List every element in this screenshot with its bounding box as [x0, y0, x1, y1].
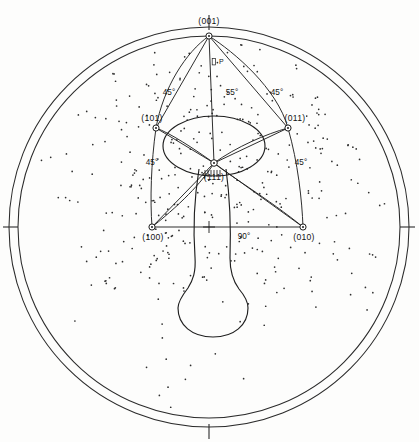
scatter-point: [240, 167, 242, 169]
scatter-point: [131, 184, 133, 186]
scatter-point: [266, 93, 268, 95]
scatter-point: [357, 182, 359, 184]
scatter-point: [123, 241, 125, 243]
scatter-point: [167, 386, 169, 388]
scatter-point: [190, 365, 192, 367]
scatter-point: [256, 159, 258, 161]
scatter-point: [326, 138, 328, 140]
scatter-point: [104, 141, 106, 143]
scatter-point: [203, 276, 205, 278]
pole-marker-100[interactable]: [149, 224, 155, 230]
angle-label-upper-left: 45°: [163, 88, 175, 97]
scatter-point: [168, 257, 170, 259]
scatter-point: [100, 250, 102, 252]
scatter-point: [105, 118, 107, 120]
scatter-point: [135, 170, 137, 172]
scatter-point: [206, 279, 208, 281]
scatter-point: [277, 153, 279, 155]
scatter-point: [306, 115, 308, 117]
scatter-point: [242, 119, 244, 121]
pole-marker-001[interactable]: [206, 33, 212, 39]
scatter-point: [91, 173, 93, 175]
scatter-point: [295, 64, 297, 66]
scatter-point: [279, 203, 281, 205]
scatter-point: [249, 122, 251, 124]
zone-line-001-011-ray: [209, 36, 288, 128]
scatter-point: [65, 197, 67, 199]
zone-line-111-010-ray: [214, 163, 303, 227]
scatter-point: [252, 247, 254, 249]
scatter-point: [222, 301, 224, 303]
scatter-point: [146, 367, 148, 369]
scatter-point: [154, 201, 156, 203]
scatter-point: [248, 221, 250, 223]
scatter-point: [153, 200, 155, 202]
scatter-point: [140, 271, 142, 273]
scatter-point: [319, 148, 321, 150]
scatter-point: [296, 133, 298, 135]
scatter-point: [156, 74, 158, 76]
scatter-point: [198, 72, 200, 74]
scatter-point: [139, 185, 141, 187]
scatter-point: [180, 130, 182, 132]
scatter-point: [256, 71, 258, 73]
scatter-point: [116, 99, 118, 101]
scatter-point: [133, 237, 135, 239]
pole-marker-011[interactable]: [285, 125, 291, 131]
scatter-point: [247, 70, 249, 72]
scatter-point: [319, 181, 321, 183]
scatter-point: [276, 201, 278, 203]
scatter-point: [178, 213, 180, 215]
scatter-point: [355, 148, 357, 150]
scatter-point: [118, 120, 120, 122]
scatter-point: [214, 353, 216, 355]
scatter-point: [292, 94, 294, 96]
scatter-point: [183, 216, 185, 218]
scatter-point: [157, 298, 159, 300]
scatter-point: [129, 95, 131, 97]
scatter-point: [92, 144, 94, 146]
pole-marker-111[interactable]: [211, 160, 218, 167]
zone-lines: [152, 36, 303, 227]
scatter-point: [202, 276, 204, 278]
scatter-point: [349, 248, 351, 250]
scatter-point: [130, 186, 132, 188]
scatter-point: [308, 192, 310, 194]
scatter-point: [290, 247, 292, 249]
scatter-point: [212, 183, 214, 185]
pole-marker-010[interactable]: [300, 224, 306, 230]
scatter-point: [265, 279, 267, 281]
point-marker-p-icon[interactable]: [212, 59, 215, 65]
scatter-point: [251, 107, 253, 109]
scatter-point: [345, 213, 347, 215]
scatter-point: [211, 193, 213, 195]
scatter-point: [162, 250, 164, 252]
scatter-point: [86, 111, 88, 113]
scatter-point: [126, 122, 128, 124]
scatter-point: [137, 197, 139, 199]
scatter-point: [173, 283, 175, 285]
scatter-point: [372, 254, 374, 256]
scatter-point: [105, 212, 107, 214]
scatter-point: [193, 96, 195, 98]
scatter-point: [218, 253, 220, 255]
angle-label-center-55: 55°: [226, 88, 238, 97]
scatter-point: [183, 287, 185, 289]
scatter-point: [270, 240, 272, 242]
scatter-point: [379, 205, 381, 207]
pole-marker-101[interactable]: [153, 125, 159, 131]
scatter-point: [224, 197, 226, 199]
scatter-point: [168, 237, 170, 239]
scatter-point: [375, 256, 377, 258]
scatter-point: [220, 195, 222, 197]
scatter-point: [337, 259, 339, 261]
scatter-point: [318, 197, 320, 199]
scatter-point: [131, 248, 133, 250]
scatter-point: [276, 174, 278, 176]
scatter-point: [285, 198, 287, 200]
scatter-point: [268, 148, 270, 150]
scatter-point: [197, 192, 199, 194]
scatter-point: [109, 277, 111, 279]
scatter-point: [275, 271, 277, 273]
scatter-point: [288, 166, 290, 168]
